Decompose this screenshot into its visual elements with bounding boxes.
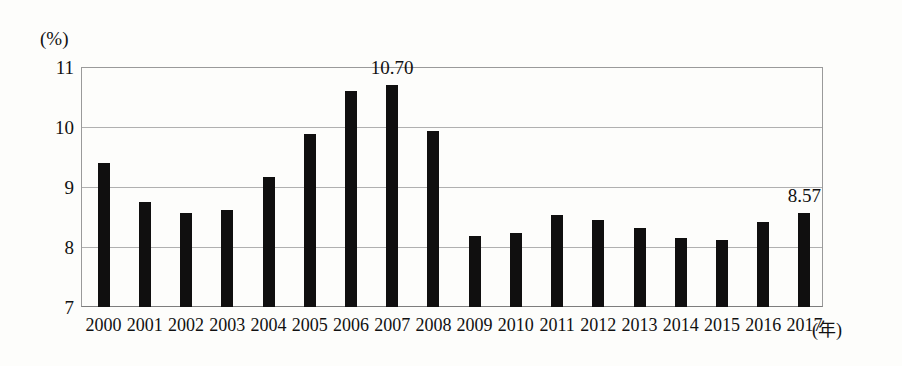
- bar-2009: [469, 236, 481, 307]
- x-tick-label: 2006: [333, 315, 369, 336]
- x-tick-label: 2004: [251, 315, 287, 336]
- bar-2004: [263, 177, 275, 307]
- x-tick-label: 2015: [704, 315, 740, 336]
- bar-2008: [427, 131, 439, 307]
- x-tick-label: 2002: [168, 315, 204, 336]
- x-tick-label: 2001: [127, 315, 163, 336]
- bar-2015: [716, 240, 728, 307]
- bar-2000: [98, 163, 110, 307]
- x-tick-label: 2008: [415, 315, 451, 336]
- x-tick-label: 2000: [86, 315, 122, 336]
- bar-2014: [675, 238, 687, 307]
- x-tick-label: 2003: [209, 315, 245, 336]
- bar-2017: [798, 213, 810, 307]
- x-tick-label: 2010: [498, 315, 534, 336]
- bar-chart: (%) 11 10 9 8 7 10.708.57 (年) 2000200120…: [0, 0, 902, 366]
- x-tick-label: 2017: [786, 315, 822, 336]
- bar-2011: [551, 215, 563, 307]
- bar-2001: [139, 202, 151, 307]
- bar-2007: [386, 85, 398, 307]
- data-label-2007: 10.70: [371, 57, 414, 79]
- bar-2005: [304, 134, 316, 307]
- bars-layer: [81, 67, 823, 307]
- x-tick-label: 2009: [457, 315, 493, 336]
- x-axis-tick-labels: (年) 200020012002200320042005200620072008…: [0, 315, 902, 345]
- x-tick-label: 2014: [663, 315, 699, 336]
- y-tick-label: 11: [40, 58, 74, 77]
- x-tick-label: 2007: [374, 315, 410, 336]
- y-tick-label: 10: [40, 118, 74, 137]
- bar-2002: [180, 213, 192, 307]
- bar-2003: [221, 210, 233, 307]
- y-axis-tick-labels: 11 10 9 8 7: [38, 0, 74, 366]
- x-tick-label: 2011: [539, 315, 574, 336]
- x-tick-label: 2016: [745, 315, 781, 336]
- bar-2016: [757, 222, 769, 307]
- bar-2010: [510, 233, 522, 307]
- x-tick-label: 2005: [292, 315, 328, 336]
- y-tick-label: 9: [40, 178, 74, 197]
- bar-2012: [592, 220, 604, 307]
- y-tick-label: 8: [40, 238, 74, 257]
- bar-2006: [345, 91, 357, 307]
- x-tick-label: 2013: [622, 315, 658, 336]
- bar-2013: [634, 228, 646, 307]
- data-label-2017: 8.57: [788, 185, 821, 207]
- x-tick-label: 2012: [580, 315, 616, 336]
